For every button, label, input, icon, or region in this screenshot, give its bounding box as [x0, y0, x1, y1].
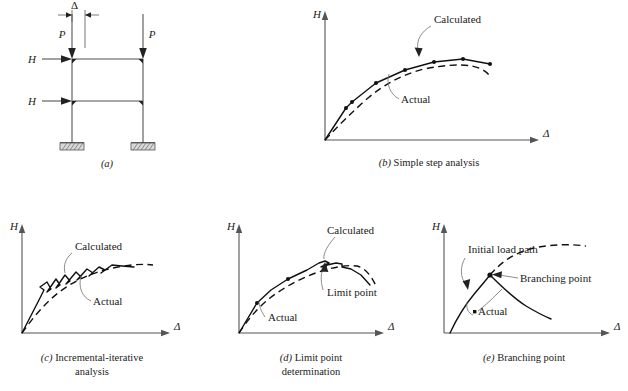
chart-c-axes: H Δ	[9, 220, 180, 336]
chart-e-caption-tag: (e)	[483, 352, 495, 364]
chart-d-caption-tag: (d)	[280, 352, 293, 364]
chart-d-caption-text: Limit point	[295, 352, 343, 363]
panel-d-limit-point: H Δ Calculated Limit point Actual	[215, 205, 420, 391]
lower-lateral-load-label: H	[27, 95, 37, 107]
left-axial-load-arrow: P	[58, 14, 76, 59]
chart-e-svg: H Δ Initial load path Branching point	[420, 205, 628, 391]
chart-b-x-axis-label: Δ	[542, 127, 549, 139]
frame-structure	[72, 59, 143, 143]
chart-e-caption-text: Branching point	[497, 352, 565, 363]
chart-c-caption-line2: analysis	[75, 366, 109, 377]
right-axial-load-arrow: P	[139, 14, 155, 59]
chart-d-actual-curve	[239, 266, 376, 333]
chart-b-caption-tag: (b)	[379, 157, 392, 169]
chart-e-actual-annotation: Actual	[467, 289, 508, 317]
upper-lateral-load-label: H	[27, 53, 37, 65]
delta-dimension-group: Δ	[58, 0, 99, 48]
delta-label: Δ	[71, 0, 78, 11]
chart-b-y-axis-label: H	[312, 8, 322, 20]
panel-c-incremental-iterative: H Δ Calculated Actual (c) Incremental-it…	[0, 205, 215, 391]
chart-d-axes: H Δ	[226, 220, 394, 336]
left-axial-load-label: P	[58, 28, 66, 40]
right-axial-load-label: P	[148, 28, 156, 40]
chart-e-prebranch-curve	[450, 275, 490, 333]
upper-lateral-load-arrow: H	[27, 53, 72, 65]
chart-d-limit-point-label: Limit point	[327, 286, 377, 298]
panel-a-frame-diagram: Δ P P H	[0, 0, 300, 180]
chart-d-caption-line1: (d) Limit point	[280, 352, 343, 364]
chart-d-x-axis-label: Δ	[387, 320, 394, 332]
chart-e-initial-load-path-label: Initial load path	[468, 243, 538, 255]
chart-d-calculated-annotation: Calculated	[324, 224, 375, 259]
chart-e-branching-point-label: Branching point	[520, 272, 591, 284]
lower-lateral-load-arrow: H	[27, 95, 72, 107]
chart-d-actual-annotation: Actual	[259, 301, 297, 323]
chart-d-actual-label: Actual	[268, 311, 297, 323]
chart-d-caption-line2: determination	[282, 366, 341, 377]
chart-c-y-axis-label: H	[9, 220, 19, 232]
frame-diagram-svg: Δ P P H	[0, 0, 300, 180]
chart-d-limit-point-annotation: Limit point	[321, 262, 377, 298]
chart-c-x-axis-label: Δ	[173, 320, 180, 332]
chart-c-actual-annotation: Actual	[80, 276, 122, 307]
chart-e-actual-label: Actual	[478, 305, 507, 317]
chart-b-axes: H Δ	[312, 8, 549, 143]
chart-e-branching-point-marker	[487, 272, 492, 277]
chart-c-caption-tag: (c)	[41, 352, 53, 364]
panel-e-branching-point: H Δ Initial load path Branching point	[420, 205, 628, 391]
chart-e-branching-point-annotation: Branching point	[492, 271, 591, 284]
chart-c-caption-text: Incremental-iterative	[55, 352, 143, 363]
chart-b-calculated-label: Calculated	[434, 13, 482, 25]
chart-b-svg: H Δ Calculated Actual (b)	[300, 0, 628, 180]
left-support	[60, 143, 84, 150]
chart-b-actual-annotation: Actual	[388, 74, 430, 105]
chart-c-actual-label: Actual	[93, 295, 122, 307]
chart-b-caption-text: Simple step analysis	[394, 157, 480, 168]
chart-e-x-axis-label: Δ	[613, 320, 620, 332]
chart-c-svg: H Δ Calculated Actual (c) Incremental-it…	[0, 205, 215, 391]
chart-b-actual-label: Actual	[401, 93, 430, 105]
chart-c-caption-line1: (c) Incremental-iterative	[41, 352, 144, 364]
chart-d-y-axis-label: H	[226, 220, 236, 232]
panel-a-caption-tag: (a)	[101, 158, 114, 170]
panel-b-simple-step-analysis: H Δ Calculated Actual (b)	[300, 0, 628, 180]
chart-b-calculated-annotation: Calculated	[415, 13, 482, 57]
chart-e-y-axis-label: H	[431, 220, 441, 232]
chart-b-caption: (b) Simple step analysis	[379, 157, 480, 169]
chart-d-svg: H Δ Calculated Limit point Actual	[215, 205, 420, 391]
right-support	[131, 143, 155, 150]
chart-e-caption: (e) Branching point	[483, 352, 565, 364]
chart-c-calculated-label: Calculated	[75, 240, 123, 252]
chart-d-calculated-label: Calculated	[327, 224, 375, 236]
